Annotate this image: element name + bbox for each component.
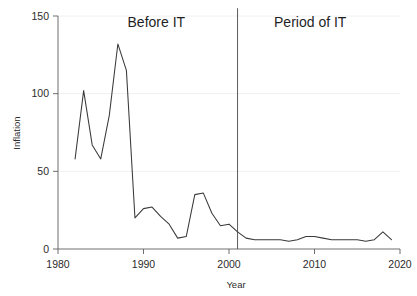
- x-tick-label: 1980: [46, 258, 70, 270]
- x-tick-label: 2020: [388, 258, 412, 270]
- y-tick-label: 150: [31, 10, 49, 22]
- x-tick-label: 2000: [217, 258, 241, 270]
- y-tick-label: 0: [43, 243, 49, 255]
- y-axis-title: Inflation: [11, 116, 22, 149]
- x-tick-label: 2010: [303, 258, 327, 270]
- x-axis-title: Year: [226, 279, 245, 290]
- y-tick-label: 50: [37, 165, 49, 177]
- chart-background: [0, 0, 417, 296]
- period-of-it-label: Period of IT: [274, 14, 347, 30]
- x-tick-label: 1990: [132, 258, 156, 270]
- inflation-chart: 050100150 19801990200020102020 Inflation…: [0, 0, 417, 296]
- before-it-label: Before IT: [128, 14, 186, 30]
- chart-canvas: 050100150 19801990200020102020 Inflation…: [0, 0, 417, 296]
- y-tick-label: 100: [31, 87, 49, 99]
